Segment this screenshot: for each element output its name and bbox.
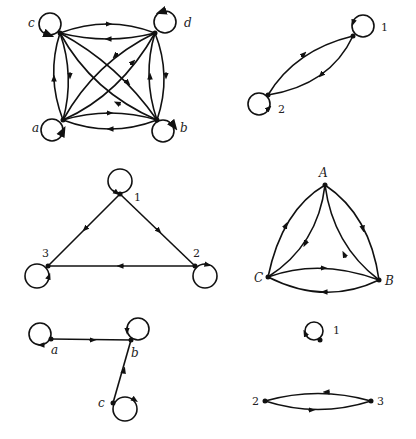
loop-d [154,11,176,33]
edge-b-c [60,33,157,120]
edge-d-b [155,33,164,120]
directed-graphs-figure: c d a b 1 2 1 2 3 [0,0,416,439]
label-1: 1 [381,21,388,34]
loop-3 [25,264,49,288]
label-1: 1 [333,324,340,337]
arrow-icon [344,254,346,258]
edge-B-C [268,277,379,292]
edge-a-d [63,33,155,120]
edge-d-a [63,33,155,120]
loop-c [39,13,61,35]
node-3 [46,264,51,269]
label-B: B [384,274,394,288]
loop-b [127,318,149,340]
label-2: 2 [278,103,285,116]
label-A: A [318,166,328,180]
node-C [266,275,271,280]
loop-a [29,323,51,345]
edge-1-2 [268,36,353,95]
node-2 [266,93,271,98]
graph-triangle: 1 2 3 [25,169,217,288]
loop-a [41,119,63,141]
edge-c-b [60,33,157,120]
label-1: 1 [134,191,141,204]
loop-c-arrow-icon [44,33,49,35]
edge-C-B [268,268,379,280]
node-B [377,278,382,283]
edge-c-d [60,24,155,33]
loop-1 [352,15,374,37]
node-2 [263,399,268,404]
edge-a-c [54,33,63,120]
edge-d-c [60,33,155,39]
arrow-icon [117,103,121,105]
node-A [323,183,328,188]
node-b [129,338,134,343]
edge-A-B [325,185,379,280]
label-2: 2 [252,395,259,408]
node-d [153,31,158,36]
node-1 [318,338,323,343]
label-a: a [51,343,58,357]
label-3: 3 [42,247,49,260]
edge-1-3 [48,194,120,266]
loop-a-arrow-icon [62,131,63,133]
graph-two-node: 1 2 [248,15,388,116]
label-2: 2 [193,247,200,260]
label-d: d [184,16,192,30]
arrow-icon [123,370,124,374]
graph-complete-abcd: c d a b [28,11,192,142]
label-b: b [180,121,188,135]
graph-disconnected: 1 2 3 [252,322,384,410]
loop-c [113,397,137,421]
edge-B-A [325,185,379,280]
graph-abc-triangle: A B C [254,166,394,292]
graph-abc-path: a b c [29,318,149,421]
label-3: 3 [377,395,384,408]
edge-b-a [63,120,157,129]
loop-b [152,120,174,142]
loop-1 [108,169,132,193]
node-2 [193,264,198,269]
label-C: C [254,271,263,285]
node-a [61,118,66,123]
edge-C-A [268,185,325,277]
node-c [111,401,116,406]
node-c [58,31,63,36]
node-3 [369,399,374,404]
arrow-icon [130,62,133,65]
node-1 [351,34,356,39]
loop-d-arrow-icon [161,11,164,12]
loop-1 [305,322,323,340]
edge-2-1 [268,36,353,95]
edge-A-C [268,185,325,277]
label-a: a [32,121,39,135]
label-c: c [28,16,35,30]
label-c: c [98,396,105,410]
node-b [155,118,160,123]
label-b: b [131,346,139,360]
node-a [49,337,54,342]
node-1 [118,192,123,197]
edge-2-3 [265,401,371,410]
edge-3-2 [265,394,371,402]
edge-c-b [113,340,131,403]
